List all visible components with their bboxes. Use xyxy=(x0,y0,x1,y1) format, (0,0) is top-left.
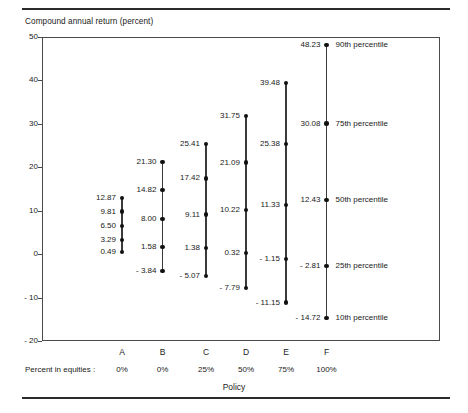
percentile-label-90: 90th percentile xyxy=(336,41,388,49)
data-point xyxy=(204,176,208,180)
y-axis-tick-label: 0 xyxy=(8,250,38,258)
figure-container: Compound annual return (percent) 5040302… xyxy=(0,0,468,413)
data-point xyxy=(204,142,208,146)
data-point-label: 21.30 xyxy=(101,158,157,166)
equities-value-d: 50% xyxy=(226,366,266,374)
data-point xyxy=(324,43,328,47)
x-axis-category-e: E xyxy=(266,348,306,357)
data-point-label: - 11.15 xyxy=(224,299,280,307)
x-axis-category-b: B xyxy=(143,348,183,357)
data-point-label: 39.48 xyxy=(224,79,280,87)
data-point-label: 31.75 xyxy=(184,112,240,120)
y-axis-tick-mark xyxy=(38,167,42,168)
data-point-label: 30.08 xyxy=(265,120,321,128)
data-point-label: 14.82 xyxy=(101,186,157,194)
equities-caption: Percent in equities : xyxy=(25,366,95,374)
data-point-label: 12.43 xyxy=(265,196,321,204)
y-axis-tick-label: 40 xyxy=(8,76,38,84)
y-axis-tick-mark xyxy=(38,124,42,125)
data-point-label: 12.87 xyxy=(60,194,116,202)
y-axis-tick-label: - 20 xyxy=(8,337,38,345)
equities-value-a: 0% xyxy=(102,366,142,374)
data-point-label: 48.23 xyxy=(265,41,321,49)
data-point xyxy=(284,142,288,146)
data-point xyxy=(324,198,328,202)
data-point-label: 25.41 xyxy=(144,140,200,148)
percentile-label-50: 50th percentile xyxy=(336,196,388,204)
y-axis-tick-label: - 10 xyxy=(8,294,38,302)
bottom-horizontal-rule xyxy=(22,397,450,399)
data-point-label: - 5.07 xyxy=(144,272,200,280)
data-point xyxy=(120,238,124,242)
data-point xyxy=(244,160,248,164)
data-point xyxy=(324,121,328,125)
equities-value-e: 75% xyxy=(266,366,306,374)
x-axis-title: Policy xyxy=(0,383,468,392)
data-point xyxy=(284,81,288,85)
y-axis-tick-label: 50 xyxy=(8,33,38,41)
top-horizontal-rule xyxy=(22,8,450,10)
y-axis-tick-mark xyxy=(38,80,42,81)
data-point xyxy=(284,300,288,304)
data-point-label: 9.81 xyxy=(60,208,116,216)
data-point xyxy=(120,224,124,228)
y-axis-tick-label: 10 xyxy=(8,207,38,215)
x-axis-category-f: F xyxy=(307,348,347,357)
y-axis-tick-mark xyxy=(38,211,42,212)
data-point-label: 17.42 xyxy=(144,174,200,182)
data-point xyxy=(120,209,124,213)
y-axis-tick-mark xyxy=(38,341,42,342)
data-point-label: - 14.72 xyxy=(265,314,321,322)
data-point-label: 21.09 xyxy=(184,159,240,167)
y-axis-tick-label: 20 xyxy=(8,163,38,171)
x-axis-category-c: C xyxy=(186,348,226,357)
series-connector-line xyxy=(326,45,327,318)
y-axis-tick-mark xyxy=(38,298,42,299)
y-axis-title: Compound annual return (percent) xyxy=(25,17,153,26)
equities-value-c: 25% xyxy=(186,366,226,374)
y-axis-tick-mark xyxy=(38,254,42,255)
data-point xyxy=(160,188,164,192)
data-point xyxy=(160,160,164,164)
percentile-label-25: 25th percentile xyxy=(336,262,388,270)
data-point-label: - 2.81 xyxy=(265,262,321,270)
y-axis-tick-mark xyxy=(38,37,42,38)
y-axis-tick-label: 30 xyxy=(8,120,38,128)
percentile-label-75: 75th percentile xyxy=(336,120,388,128)
equities-value-f: 100% xyxy=(307,366,347,374)
percentile-label-10: 10th percentile xyxy=(336,314,388,322)
equities-value-b: 0% xyxy=(143,366,183,374)
x-axis-category-a: A xyxy=(102,348,142,357)
data-point-label: - 7.79 xyxy=(184,284,240,292)
data-point-label: 25.38 xyxy=(224,140,280,148)
data-point xyxy=(324,316,328,320)
x-axis-category-d: D xyxy=(226,348,266,357)
